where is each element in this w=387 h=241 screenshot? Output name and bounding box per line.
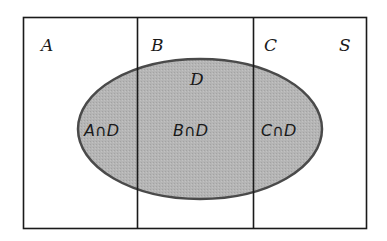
set-b-label: B [150, 35, 164, 55]
venn-diagram: A B C S D A∩D B∩D C∩D [0, 0, 387, 241]
universe-s-label: S [339, 35, 351, 55]
set-a-label: A [39, 35, 53, 55]
set-d-label: D [189, 69, 204, 89]
set-c-label: C [264, 35, 277, 55]
a-intersect-d-label: A∩D [83, 121, 119, 140]
c-intersect-d-label: C∩D [261, 121, 296, 140]
b-intersect-d-label: B∩D [173, 121, 208, 140]
diagram-svg: A B C S D A∩D B∩D C∩D [0, 0, 387, 241]
